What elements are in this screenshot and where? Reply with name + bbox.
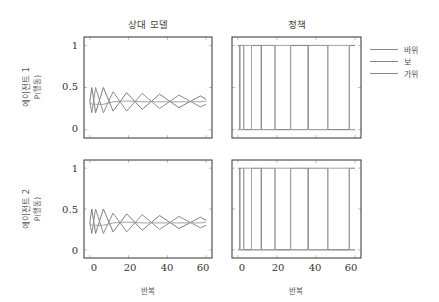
chart-canvas — [0, 0, 439, 302]
plot-policy-agent-1 — [232, 37, 361, 138]
policy-line-0 — [238, 168, 355, 250]
policy-line-1 — [238, 45, 355, 129]
plots-group — [84, 37, 361, 258]
series-line-1 — [90, 209, 206, 234]
series-line-1 — [90, 88, 206, 113]
plot-opponent-model-agent-2 — [84, 160, 212, 258]
policy-line-1 — [238, 168, 355, 250]
plot-policy-agent-2 — [232, 160, 361, 258]
plot-opponent-model-agent-1 — [84, 37, 212, 138]
policy-line-0 — [238, 45, 355, 129]
policy-line-2 — [238, 168, 355, 250]
policy-line-2 — [238, 45, 355, 129]
